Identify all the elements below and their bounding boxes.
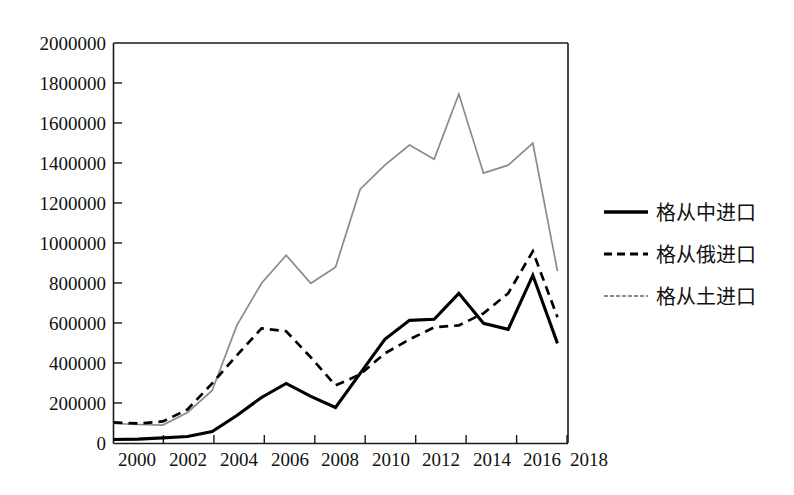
x-tick-label: 2002 [169,449,207,470]
legend-label-china: 格从中进口 [656,201,756,225]
x-tick-label: 2006 [271,449,309,470]
chart-container: 2000000 1800000 1600000 1400000 1200000 … [0,0,794,495]
x-tick-label: 2000 [118,449,156,470]
x-tick-label: 2014 [473,449,512,470]
y-tick-label: 2000000 [40,33,107,54]
y-tick-label: 1600000 [40,113,107,134]
y-tick-label: 200000 [49,393,106,414]
y-tick-label: 800000 [49,273,106,294]
y-tick-label: 1400000 [40,153,107,174]
line-chart: 2000000 1800000 1600000 1400000 1200000 … [0,0,794,495]
y-tick-label: 1000000 [40,233,107,254]
x-tick-label: 2010 [372,449,410,470]
y-tick-label: 600000 [49,313,106,334]
x-tick-label: 2016 [523,449,561,470]
legend-label-russia: 格从俄进口 [656,243,756,267]
x-tick-label: 2012 [422,449,460,470]
y-tick-label: 0 [97,433,107,454]
y-tick-label: 1200000 [40,193,107,214]
legend-label-turkey: 格从土进口 [656,285,756,309]
y-tick-label: 1800000 [40,73,107,94]
x-tick-label: 2008 [321,449,359,470]
x-tick-label: 2018 [570,449,608,470]
x-tick-label: 2004 [220,449,259,470]
y-tick-label: 400000 [49,353,106,374]
